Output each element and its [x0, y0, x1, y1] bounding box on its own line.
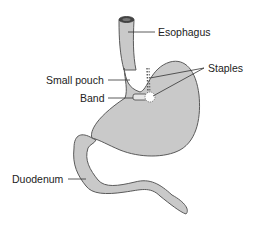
label-duodenum: Duodenum	[12, 174, 63, 185]
label-staples: Staples	[208, 63, 243, 74]
band-shape	[133, 94, 147, 100]
stomach-illustration	[0, 0, 257, 230]
gastroplasty-diagram: Esophagus Staples Small pouch Band Duode…	[0, 0, 257, 230]
esophagus-shape	[119, 20, 136, 70]
stoma-opening	[145, 92, 155, 102]
label-band: Band	[80, 93, 105, 104]
stomach-shape	[91, 61, 199, 156]
label-small-pouch: Small pouch	[46, 75, 104, 86]
staple-line	[147, 68, 148, 93]
label-esophagus: Esophagus	[158, 27, 211, 38]
